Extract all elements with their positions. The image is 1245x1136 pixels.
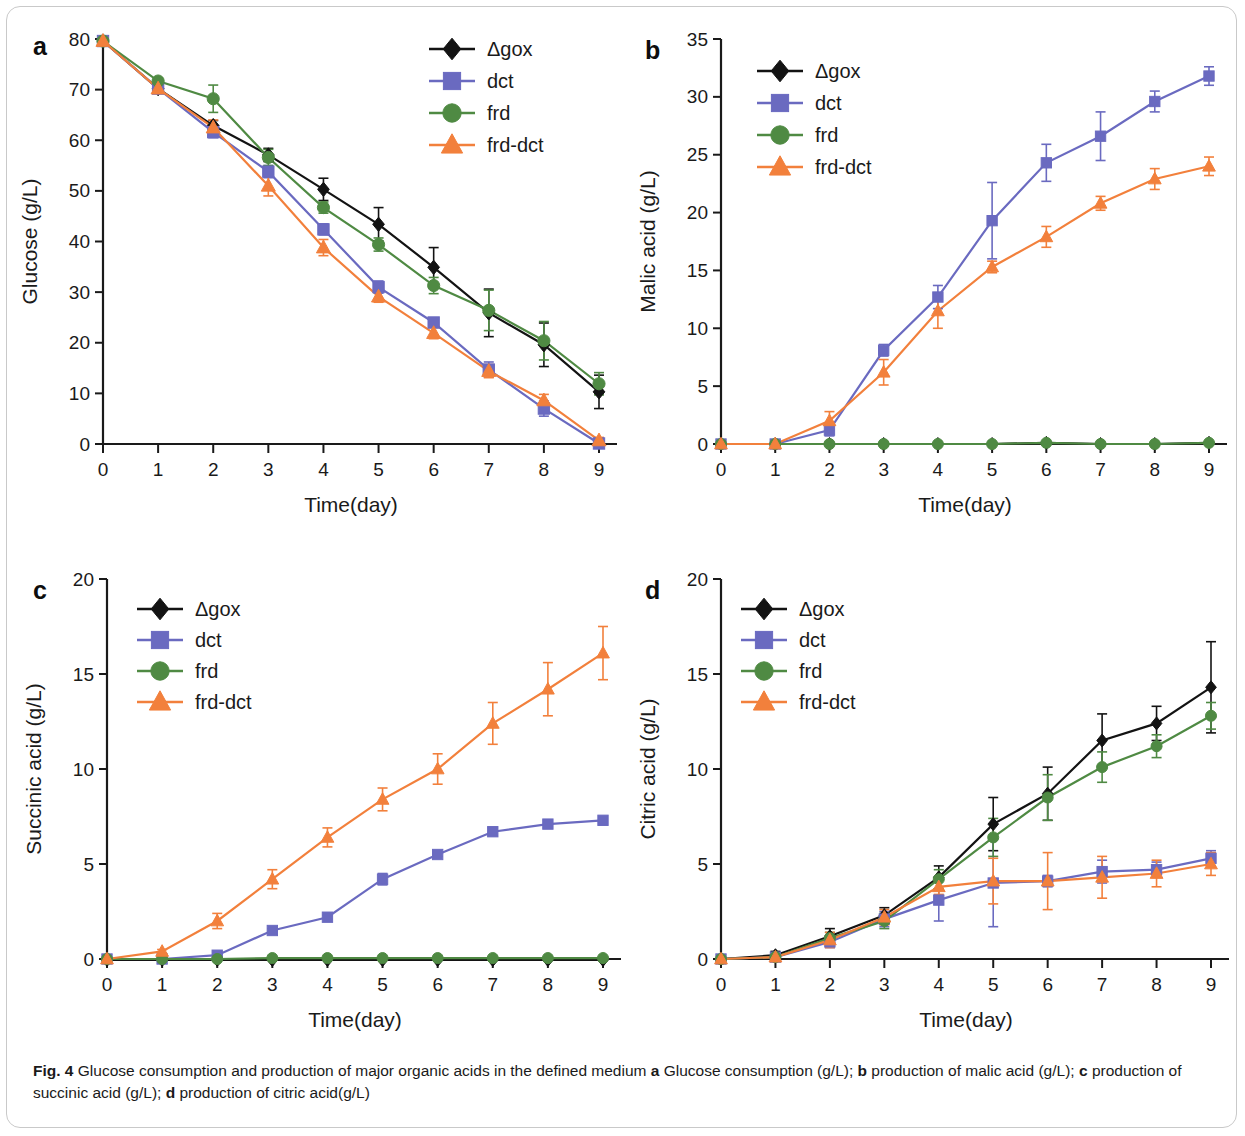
- series-line-frd: [107, 958, 603, 959]
- y-axis-title: Malic acid (g/L): [636, 170, 659, 312]
- x-tick-label: 6: [1042, 974, 1053, 995]
- y-tick-label: 15: [73, 664, 94, 685]
- y-tick-label: 30: [69, 282, 90, 303]
- legend-label: frd: [487, 102, 510, 124]
- caption-text: production of citric acid(g/L): [175, 1084, 370, 1101]
- legend-item-frd-dct[interactable]: frd-dct: [429, 134, 544, 156]
- legend-item-frd-dct[interactable]: frd-dct: [137, 691, 252, 713]
- x-tick-label: 7: [1097, 974, 1108, 995]
- x-tick-label: 0: [716, 974, 727, 995]
- chart-panel-d: 051015200123456789Time(day)Citric acid (…: [629, 547, 1237, 1057]
- y-tick-label: 10: [69, 383, 90, 404]
- legend-label: dct: [799, 629, 826, 651]
- x-tick-label: 5: [987, 459, 998, 480]
- series-line-dct: [721, 858, 1211, 959]
- panel-letter-c: c: [33, 576, 47, 604]
- caption-bold-token: b: [858, 1062, 867, 1079]
- y-tick-label: 70: [69, 79, 90, 100]
- legend-item-frd-dct[interactable]: frd-dct: [757, 156, 872, 178]
- error-bars-Δgox: [98, 39, 604, 409]
- y-tick-label: 0: [697, 434, 708, 455]
- legend-label: frd-dct: [195, 691, 252, 713]
- panel-letter-b: b: [645, 36, 660, 64]
- x-tick-label: 4: [318, 459, 329, 480]
- legend-item-dct[interactable]: dct: [429, 70, 514, 92]
- legend-item-dct[interactable]: dct: [741, 629, 826, 651]
- y-tick-label: 5: [83, 854, 94, 875]
- legend-label: Δgox: [487, 38, 533, 60]
- caption-text: Glucose consumption and production of ma…: [73, 1062, 650, 1079]
- series-line-frd-dct: [721, 166, 1209, 444]
- legend-item-Δgox[interactable]: Δgox: [137, 598, 241, 620]
- x-tick-label: 3: [267, 974, 278, 995]
- legend-label: frd-dct: [815, 156, 872, 178]
- x-tick-label: 9: [598, 974, 609, 995]
- y-tick-label: 20: [69, 332, 90, 353]
- y-tick-label: 25: [687, 144, 708, 165]
- legend-label: frd: [815, 124, 838, 146]
- legend-item-Δgox[interactable]: Δgox: [429, 38, 533, 60]
- x-tick-label: 4: [322, 974, 333, 995]
- x-tick-label: 2: [825, 974, 836, 995]
- legend-item-dct[interactable]: dct: [137, 629, 222, 651]
- y-tick-label: 60: [69, 130, 90, 151]
- series-line-dct: [721, 76, 1209, 444]
- legend-item-frd[interactable]: frd: [741, 660, 822, 682]
- data-points-frd-dct: [715, 160, 1216, 449]
- legend-item-dct[interactable]: dct: [757, 92, 842, 114]
- legend-item-Δgox[interactable]: Δgox: [757, 60, 861, 82]
- legend-label: frd: [195, 660, 218, 682]
- figure-frame: 010203040506070800123456789Time(day)Gluc…: [6, 6, 1237, 1128]
- chart-panel-b: 051015202530350123456789Time(day)Malic a…: [629, 11, 1237, 544]
- figure-caption: Fig. 4 Glucose consumption and productio…: [33, 1060, 1223, 1104]
- y-tick-label: 0: [79, 434, 90, 455]
- chart-svg-c: 051015200123456789Time(day)Succinic acid…: [11, 547, 627, 1057]
- x-tick-label: 7: [487, 974, 498, 995]
- x-tick-label: 2: [208, 459, 219, 480]
- x-tick-label: 1: [153, 459, 164, 480]
- legend-item-frd-dct[interactable]: frd-dct: [741, 691, 856, 713]
- panel-letter-d: d: [645, 576, 660, 604]
- x-tick-label: 4: [933, 974, 944, 995]
- legend-label: frd-dct: [487, 134, 544, 156]
- legend-item-Δgox[interactable]: Δgox: [741, 598, 845, 620]
- series-line-frd-dct: [103, 41, 599, 440]
- legend-item-frd[interactable]: frd: [757, 124, 838, 146]
- error-bars-frd-dct: [716, 853, 1216, 961]
- series-line-frd: [721, 443, 1209, 444]
- series-line-Δgox: [721, 687, 1211, 959]
- x-tick-label: 5: [377, 974, 388, 995]
- y-tick-label: 20: [687, 569, 708, 590]
- legend-label: Δgox: [815, 60, 861, 82]
- legend-item-frd[interactable]: frd: [137, 660, 218, 682]
- y-axis-title: Succinic acid (g/L): [22, 683, 45, 855]
- series-line-Δgox: [103, 41, 599, 392]
- x-tick-label: 2: [212, 974, 223, 995]
- x-tick-label: 3: [263, 459, 274, 480]
- x-tick-label: 9: [1206, 974, 1217, 995]
- legend-label: Δgox: [799, 598, 845, 620]
- legend: Δgoxdctfrdfrd-dct: [741, 598, 856, 713]
- legend-label: frd-dct: [799, 691, 856, 713]
- legend: Δgoxdctfrdfrd-dct: [429, 38, 544, 156]
- legend-label: Δgox: [195, 598, 241, 620]
- error-bars-frd: [716, 703, 1216, 961]
- chart-svg-b: 051015202530350123456789Time(day)Malic a…: [629, 11, 1237, 544]
- x-axis-title: Time(day): [919, 1008, 1013, 1031]
- legend-label: dct: [487, 70, 514, 92]
- chart-svg-d: 051015200123456789Time(day)Citric acid (…: [629, 547, 1237, 1057]
- x-tick-label: 7: [483, 459, 494, 480]
- x-tick-label: 3: [878, 459, 889, 480]
- x-tick-label: 6: [1041, 459, 1052, 480]
- x-tick-label: 2: [824, 459, 835, 480]
- x-axis-title: Time(day): [304, 493, 398, 516]
- x-tick-label: 8: [1151, 974, 1162, 995]
- y-tick-label: 35: [687, 29, 708, 50]
- x-tick-label: 0: [98, 459, 109, 480]
- x-tick-label: 7: [1095, 459, 1106, 480]
- x-tick-label: 6: [432, 974, 443, 995]
- series-line-dct: [107, 820, 603, 959]
- legend-label: frd: [799, 660, 822, 682]
- legend-item-frd[interactable]: frd: [429, 102, 510, 124]
- x-tick-label: 9: [594, 459, 605, 480]
